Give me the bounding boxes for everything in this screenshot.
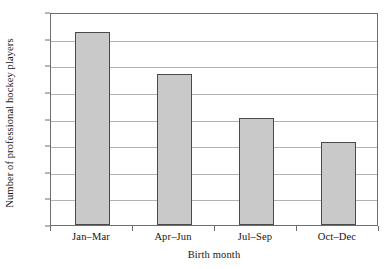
x-axis-tick-mark (50, 226, 51, 231)
y-axis-tick-mark (45, 39, 50, 40)
x-axis-tick-mark (214, 226, 215, 231)
bar (239, 118, 274, 225)
y-axis-tick-mark (45, 13, 50, 14)
y-axis-title: Number of professional hockey players (2, 8, 18, 238)
x-axis-tick-mark (132, 226, 133, 231)
plot-area (50, 13, 378, 226)
x-axis-tick-label: Oct–Dec (289, 231, 385, 242)
y-axis-tick-mark (45, 199, 50, 200)
y-axis-tick-mark (45, 146, 50, 147)
plot-inner (51, 14, 377, 225)
x-axis-tick-mark (296, 226, 297, 231)
x-axis-title: Birth month (50, 249, 378, 260)
bar (157, 74, 192, 225)
x-axis-tick-mark (378, 226, 379, 231)
y-axis-tick-mark (45, 172, 50, 173)
y-axis-tick-mark (45, 66, 50, 67)
y-axis-tick-mark (45, 92, 50, 93)
bar (75, 32, 110, 225)
y-axis-tick-mark (45, 119, 50, 120)
bar (321, 142, 356, 225)
bar-chart-figure: Number of professional hockey players 05… (0, 0, 389, 269)
